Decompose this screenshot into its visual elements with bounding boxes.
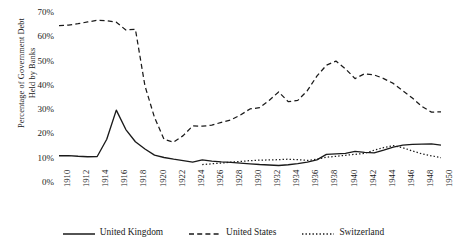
x-tick-label: 1918 [139,170,148,187]
legend-label: United States [226,227,276,237]
x-tick-label: 1912 [82,170,91,187]
x-axis-tick-labels: 1910191219141916191819201922192419261928… [0,186,447,220]
legend-item-switzerland[interactable]: Switzerland [302,227,384,237]
series-line-switzerland [202,146,441,165]
x-tick-label: 1926 [216,170,225,187]
chart-legend: United KingdomUnited StatesSwitzerland [0,222,447,242]
series-canvas [59,13,441,183]
series-line-united-states [59,20,441,142]
y-tick-label: 40% [20,81,54,90]
x-tick-label: 1942 [369,170,378,187]
y-tick-label: 10% [20,154,54,163]
x-tick-label: 1950 [445,170,454,187]
series-line-united-kingdom [59,110,441,165]
x-tick-label: 1932 [273,170,282,187]
legend-swatch-solid [63,229,95,235]
legend-label: Switzerland [339,227,384,237]
legend-label: United Kingdom [100,227,163,237]
x-tick-label: 1910 [63,170,72,187]
x-tick-label: 1934 [292,170,301,187]
plot-area [59,13,441,183]
x-tick-label: 1930 [254,170,263,187]
x-tick-label: 1920 [159,170,168,187]
y-tick-label: 60% [20,32,54,41]
x-tick-label: 1936 [311,170,320,187]
legend-swatch-dotted [302,229,334,235]
x-tick-label: 1922 [178,170,187,187]
y-tick-label: 30% [20,105,54,114]
x-tick-label: 1944 [388,170,397,187]
legend-swatch-dashed [189,229,221,235]
x-tick-label: 1940 [350,170,359,187]
x-tick-label: 1916 [120,170,129,187]
x-tick-label: 1928 [235,170,244,187]
x-tick-label: 1914 [101,170,110,187]
y-tick-label: 70% [20,8,54,17]
legend-item-united-kingdom[interactable]: United Kingdom [63,227,163,237]
x-tick-label: 1948 [426,170,435,187]
y-tick-label: 50% [20,57,54,66]
x-tick-label: 1946 [407,170,416,187]
x-tick-label: 1938 [330,170,339,187]
x-tick-label: 1924 [197,170,206,187]
y-tick-label: 20% [20,129,54,138]
legend-item-united-states[interactable]: United States [189,227,276,237]
